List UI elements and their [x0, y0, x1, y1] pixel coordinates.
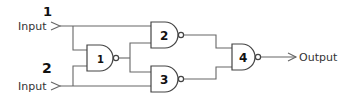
gate-3-output-wire [184, 67, 232, 79]
nand-gate-2-bubble-icon [178, 32, 183, 37]
nand-gate-3-bubble-icon [178, 76, 183, 81]
input-2-branch-wire [73, 66, 87, 86]
gate-4-mark: 4 [239, 51, 247, 65]
gate-1-mark: 1 [97, 54, 104, 65]
nand-gate-1-bubble-icon [113, 55, 118, 60]
input-1-branch-wire [73, 26, 87, 50]
input-2-number-mark: 2 [42, 60, 52, 76]
nand-gate-4: 4 [232, 44, 261, 70]
input-2-arrow-icon [51, 82, 60, 90]
input-1-number-mark: 1 [43, 4, 52, 19]
input-1-label: Input [18, 20, 47, 33]
gate-1-fanout-wire [130, 43, 151, 72]
gate-2-mark: 2 [160, 29, 168, 43]
logic-circuit-diagram: 1 Input 2 Input 1 2 3 4 Output [0, 0, 352, 99]
nand-gate-2: 2 [151, 22, 184, 48]
nand-gate-4-bubble-icon [255, 54, 260, 59]
gate-2-output-wire [184, 35, 232, 48]
input-1-arrow-icon [51, 22, 60, 30]
nand-gate-1: 1 [87, 45, 119, 71]
input-2-label: Input [18, 80, 47, 93]
gate-3-mark: 3 [160, 73, 168, 87]
nand-gate-3: 3 [151, 66, 184, 92]
output-label: Output [299, 51, 338, 64]
